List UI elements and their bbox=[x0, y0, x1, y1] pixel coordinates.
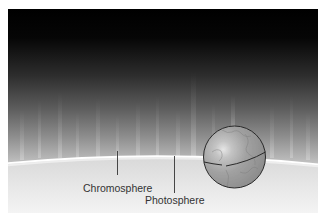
chromosphere-label: Chromosphere bbox=[83, 182, 153, 194]
sun-atmosphere-diagram: Chromosphere Photosphere bbox=[0, 0, 325, 220]
diagram-canvas: Chromosphere Photosphere bbox=[0, 0, 325, 220]
photosphere-label: Photosphere bbox=[145, 194, 205, 206]
photosphere-region bbox=[0, 156, 325, 220]
